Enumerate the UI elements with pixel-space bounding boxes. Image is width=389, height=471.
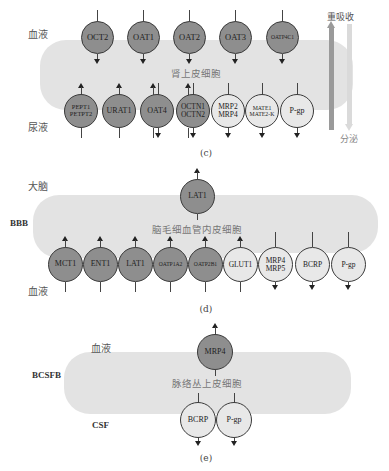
cell-label: 脑毛细血管内皮细胞 [152,222,242,236]
reabsorption-arrow-icon [329,27,334,130]
transporter-mrp4-mrp5: MRP4MRP5 [258,247,293,282]
arrow-down-icon [225,133,231,138]
transporter-oct2: OCT2 [81,21,114,54]
transporter-glut1: GLUT1 [223,247,258,282]
arrow-down-icon [309,285,315,290]
caption-e: (e) [200,453,212,463]
arrow-down-icon [94,59,100,64]
cell-label: 脉络丛上皮细胞 [172,376,242,390]
transporter-pgp: P-gp [216,402,252,438]
transporter-bcrp: BCRP [295,247,330,282]
secretion-arrow-icon [347,24,352,124]
blood-label: 血液 [28,26,48,41]
cell-label: 肾上皮细胞 [171,66,221,80]
transporter-urat1: URAT1 [102,94,136,128]
csf-label: CSF [92,420,109,430]
transporter-lat1: LAT1 [118,247,153,282]
arrow-down-icon [195,441,201,446]
panel-e: 血液 BCSFB CSF 脉络丛上皮细胞 MRP4 BCRP P-gp (e) [0,320,389,471]
transporter-oat3: OAT3 [219,21,252,54]
transporter-oatp2b1: OATP2B1 [188,247,223,282]
transporter-lat1-top: LAT1 [180,179,215,214]
transporter-mct1: MCT1 [48,247,83,282]
reabsorption-arrowhead-icon [327,21,335,28]
arrow-down-icon [272,285,278,290]
bcsfb-label: BCSFB [32,370,61,380]
urine-label: 尿液 [28,119,48,134]
transporter-pgp: P-gp [280,94,314,128]
arrow-down-icon [259,133,265,138]
transporter-oat4: OAT4 [140,94,174,128]
arrow-down-icon [231,441,237,446]
secretion-label: 分泌 [340,132,358,145]
transporter-pgp: P-gp [331,247,366,282]
arrow-down-icon [186,59,192,64]
arrow-down-icon [155,133,161,138]
brain-label: 大脑 [28,178,48,193]
arrow-down-icon [140,59,146,64]
secretion-arrowhead-icon [345,124,353,131]
arrow-down-icon [232,59,238,64]
arrow-down-icon [279,59,285,64]
arrow-down-icon [345,285,351,290]
transporter-mate1-mate2k: MATE1MATE2-K [245,94,279,128]
caption-c: (c) [200,148,212,158]
panel-d: 大脑 BBB 血液 脑毛细血管内皮细胞 LAT1 MCT1 ENT1 LAT1 … [0,170,389,310]
panel-c: 血液 尿液 肾上皮细胞 OCT2 OAT1 OAT2 OAT3 OATP4C1 … [0,0,389,160]
transporter-mrp4: MRP4 [197,334,233,370]
transporter-octn1-octn2: OCTN1OCTN2 [176,94,210,128]
arrow-down-icon [190,133,196,138]
transporter-mrp2-mrp4: MRP2MRP4 [211,94,245,128]
transporter-oatp4c1: OATP4C1 [266,21,299,54]
bbb-label: BBB [10,218,28,228]
transporter-pept1-pept2: PEPT1PETPT2 [64,94,98,128]
arrow-down-icon [294,133,300,138]
transporter-oatp1a2: OATP1A2 [153,247,188,282]
transporter-oat1: OAT1 [127,21,160,54]
transporter-ent1: ENT1 [83,247,118,282]
transporter-bcrp: BCRP [180,402,216,438]
blood-label: 血液 [91,340,111,355]
caption-d: (d) [200,304,213,314]
transporter-oat2: OAT2 [173,21,206,54]
blood-label: 血液 [28,283,48,298]
